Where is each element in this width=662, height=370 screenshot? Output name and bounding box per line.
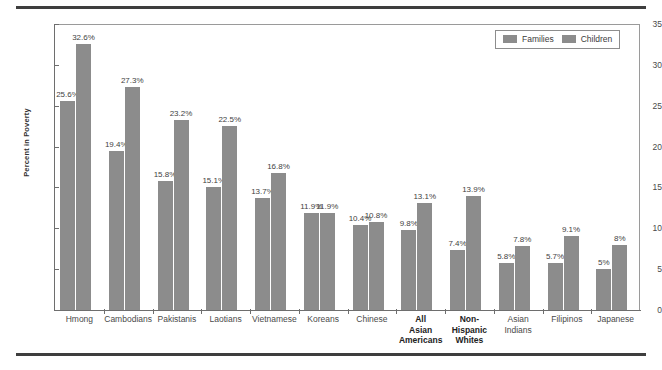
x-tick-label: All Asian Americans bbox=[399, 314, 442, 346]
bar-children bbox=[466, 196, 481, 310]
bar-families bbox=[548, 263, 563, 310]
x-tick-label: Asian Indians bbox=[504, 314, 531, 335]
x-axis-separator bbox=[445, 309, 446, 314]
bar-children bbox=[271, 173, 286, 310]
bar-group: 13.7%16.8% bbox=[250, 24, 299, 310]
bar-group: 15.1%22.5% bbox=[201, 24, 250, 310]
bar-value-label: 13.1% bbox=[413, 192, 436, 201]
bar-children bbox=[76, 44, 91, 310]
bar-children bbox=[320, 213, 335, 310]
bar-group: 9.8%13.1% bbox=[396, 24, 445, 310]
bottom-rule bbox=[16, 353, 646, 356]
x-axis-separator bbox=[543, 309, 544, 314]
bar-children bbox=[125, 87, 140, 310]
y-axis-title: Percent in Poverty bbox=[22, 73, 31, 213]
bar-group: 7.4%13.9% bbox=[445, 24, 494, 310]
x-axis-separator bbox=[299, 309, 300, 314]
bar-value-label: 7.4% bbox=[448, 239, 466, 248]
bar-group: 5.8%7.8% bbox=[494, 24, 543, 310]
bar-families bbox=[109, 151, 124, 310]
x-axis-separator bbox=[153, 309, 154, 314]
bar-children bbox=[515, 246, 530, 310]
x-tick-label: Chinese bbox=[356, 314, 387, 325]
bar-value-label: 9.8% bbox=[400, 219, 418, 228]
x-axis-separator bbox=[348, 309, 349, 314]
bar-value-label: 13.9% bbox=[462, 185, 485, 194]
bar-group: 5%8% bbox=[591, 24, 640, 310]
bar-group: 15.8%23.2% bbox=[153, 24, 202, 310]
x-tick-label: Koreans bbox=[307, 314, 339, 325]
top-rule bbox=[16, 6, 646, 9]
figure-container: Percent in Poverty 05101520253035 Famili… bbox=[0, 0, 662, 370]
x-tick-label: Vietnamese bbox=[252, 314, 297, 325]
bar-value-label: 9.1% bbox=[562, 225, 580, 234]
bar-value-label: 8% bbox=[614, 234, 626, 243]
x-tick-label: Japanese bbox=[597, 314, 634, 325]
x-tick-label: Laotians bbox=[210, 314, 242, 325]
bar-families bbox=[450, 250, 465, 310]
x-tick-label: Pakistanis bbox=[158, 314, 197, 325]
bar-value-label: 32.6% bbox=[72, 33, 95, 42]
bar-families bbox=[596, 269, 611, 310]
bar-value-label: 7.8% bbox=[513, 235, 531, 244]
bar-children bbox=[222, 126, 237, 310]
bar-value-label: 27.3% bbox=[121, 76, 144, 85]
bar-children bbox=[369, 222, 384, 310]
bar-children bbox=[174, 120, 189, 310]
plot-area: 25.6%32.6%19.4%27.3%15.8%23.2%15.1%22.5%… bbox=[55, 24, 640, 310]
bar-value-label: 5.7% bbox=[546, 252, 564, 261]
bar-families bbox=[158, 181, 173, 310]
bar-families bbox=[353, 225, 368, 310]
bar-families bbox=[255, 198, 270, 310]
bar-children bbox=[564, 236, 579, 310]
bar-value-label: 16.8% bbox=[267, 162, 290, 171]
bar-families bbox=[60, 101, 75, 310]
bar-group: 25.6%32.6% bbox=[55, 24, 104, 310]
bar-group: 11.9%11.9% bbox=[299, 24, 348, 310]
bar-families bbox=[499, 263, 514, 310]
x-axis-separator bbox=[201, 309, 202, 314]
bar-families bbox=[206, 187, 221, 310]
x-tick-label: Filipinos bbox=[551, 314, 582, 325]
bar-group: 5.7%9.1% bbox=[543, 24, 592, 310]
x-axis-separator bbox=[250, 309, 251, 314]
x-axis-separator bbox=[591, 309, 592, 314]
x-tick-label: Non- Hispanic Whites bbox=[452, 314, 487, 346]
bar-group: 10.4%10.8% bbox=[348, 24, 397, 310]
x-tick-label: Hmong bbox=[66, 314, 93, 325]
bar-value-label: 10.8% bbox=[365, 211, 388, 220]
bar-families bbox=[401, 230, 416, 310]
bar-value-label: 22.5% bbox=[218, 115, 241, 124]
bar-families bbox=[304, 213, 319, 310]
bar-children bbox=[612, 245, 627, 310]
bar-value-label: 23.2% bbox=[170, 109, 193, 118]
x-tick-label: Cambodians bbox=[104, 314, 152, 325]
x-axis-separator bbox=[396, 309, 397, 314]
y-tick-mark bbox=[54, 310, 59, 311]
bar-value-label: 5.8% bbox=[497, 252, 515, 261]
x-axis-separator bbox=[494, 309, 495, 314]
bar-group: 19.4%27.3% bbox=[104, 24, 153, 310]
bar-value-label: 5% bbox=[598, 258, 610, 267]
bar-children bbox=[417, 203, 432, 310]
bar-value-label: 11.9% bbox=[316, 202, 338, 211]
